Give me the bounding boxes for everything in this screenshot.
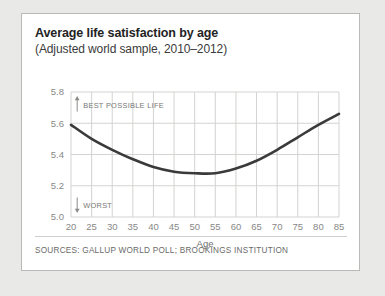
x-axis-tick-label: 85: [334, 221, 345, 232]
x-axis-tick-label: 55: [210, 221, 221, 232]
chart-screenshot: Average life satisfaction by age (Adjust…: [0, 0, 385, 296]
annotation-label: BEST POSSIBLE LIFE: [83, 101, 164, 110]
plot-area: 5.05.25.45.65.82025303540455055606570758…: [35, 62, 348, 262]
y-axis-tick-label: 5.4: [51, 149, 64, 160]
x-axis-tick-label: 80: [313, 221, 324, 232]
y-axis-tick-label: 5.8: [51, 86, 64, 97]
x-axis-tick-label: 60: [231, 221, 242, 232]
annotation-arrow-down-head: [75, 209, 80, 213]
annotation-label: WORST: [83, 201, 112, 210]
page-title: Average life satisfaction by age: [35, 26, 218, 40]
y-axis-tick-label: 5.0: [51, 211, 64, 222]
footer-divider: [35, 236, 347, 237]
chart-subtitle: (Adjusted world sample, 2010–2012): [35, 42, 227, 56]
x-axis-tick-label: 40: [148, 221, 159, 232]
x-axis-tick-label: 45: [169, 221, 180, 232]
x-axis-tick-label: 35: [128, 221, 139, 232]
chart-card: Average life satisfaction by age (Adjust…: [21, 13, 360, 271]
x-axis-tick-label: 20: [66, 221, 77, 232]
annotation-arrow-up-head: [75, 96, 80, 100]
x-axis-tick-label: 25: [86, 221, 97, 232]
x-axis-tick-label: 65: [251, 221, 262, 232]
sources-note: SOURCES: GALLUP WORLD POLL; BROOKINGS IN…: [35, 246, 288, 255]
line-chart: 5.05.25.45.65.82025303540455055606570758…: [35, 62, 348, 262]
y-axis-tick-label: 5.6: [51, 118, 64, 129]
x-axis-tick-label: 75: [292, 221, 303, 232]
x-axis-tick-label: 70: [272, 221, 283, 232]
y-axis-tick-label: 5.2: [51, 180, 64, 191]
x-axis-tick-label: 30: [107, 221, 118, 232]
x-axis-tick-label: 50: [189, 221, 200, 232]
